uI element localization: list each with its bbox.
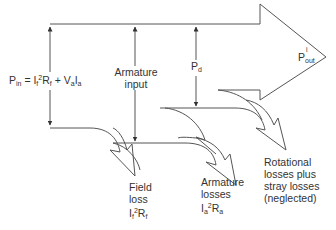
pout-label: Piout: [298, 51, 315, 67]
pd-label: Pd: [190, 60, 203, 76]
output-power-arrow: [50, 4, 326, 100]
rotational-losses-label: Rotational losses plus stray losses (neg…: [264, 156, 319, 204]
field-loss-label: Field loss If2Rf: [129, 181, 152, 223]
armature-input-label: Armature input: [112, 66, 160, 90]
pin-label: Pin = If2Rf + VaIa: [7, 72, 83, 90]
field-loss-arrow: [50, 128, 135, 176]
armature-losses-label: Armature losses Ia2Ra: [201, 176, 244, 218]
